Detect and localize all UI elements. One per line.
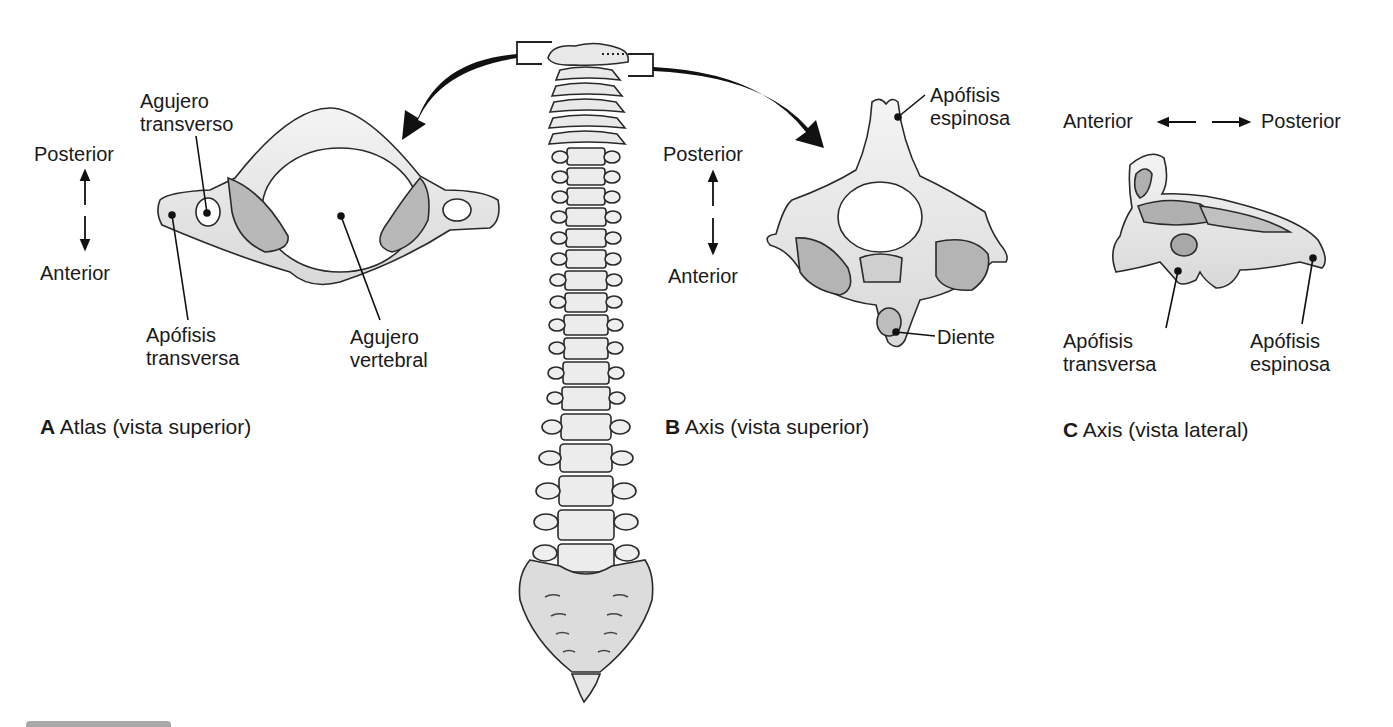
label-diente: Diente: [937, 326, 995, 349]
figure-tab-edge: [26, 721, 171, 727]
axis-sup-orientation-posterior: Posterior: [663, 143, 743, 166]
label-agujero-vertebral: Agujero vertebral: [350, 326, 428, 372]
panel-b-caption: B Axis (vista superior): [665, 415, 869, 439]
axis-lateral-illustration: [1113, 154, 1325, 288]
vertebral-column-illustration: [519, 43, 652, 702]
panel-b-title: Axis (vista superior): [685, 415, 869, 438]
panel-b-letter: B: [665, 415, 680, 438]
label-apofisis-transversa-atlas: Apófisis transversa: [146, 324, 239, 370]
label-apofisis-transversa-axis-lat: Apófisis transversa: [1063, 330, 1156, 376]
panel-c-caption: C Axis (vista lateral): [1063, 418, 1249, 442]
panel-a-title: Atlas (vista superior): [60, 415, 251, 438]
panel-c-letter: C: [1063, 418, 1078, 441]
atlas-orientation-posterior: Posterior: [34, 143, 114, 166]
atlas-orientation-anterior: Anterior: [40, 262, 110, 285]
axis-lat-orientation-posterior: Posterior: [1261, 110, 1341, 133]
panel-a-letter: A: [40, 415, 55, 438]
axis-sup-orientation-anterior: Anterior: [668, 265, 738, 288]
panel-c-title: Axis (vista lateral): [1083, 418, 1249, 441]
panel-a-caption: A Atlas (vista superior): [40, 415, 251, 439]
axis-lat-orientation-anterior: Anterior: [1063, 110, 1133, 133]
label-apofisis-espinosa-axis-lat: Apófisis espinosa: [1250, 330, 1330, 376]
label-agujero-transverso: Agujero transverso: [140, 90, 233, 136]
label-apofisis-espinosa-axis-sup: Apófisis espinosa: [930, 84, 1010, 130]
